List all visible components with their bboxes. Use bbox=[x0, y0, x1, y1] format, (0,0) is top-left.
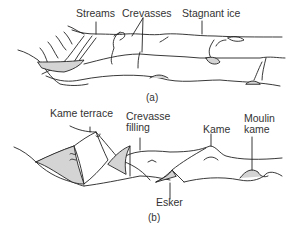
label-kame: Kame bbox=[203, 124, 230, 135]
label-streams: Streams bbox=[76, 8, 115, 19]
label-stagnant-ice: Stagnant ice bbox=[182, 8, 240, 19]
caption-panel-a: (a) bbox=[146, 92, 158, 103]
label-moulin-kame-line2: kame bbox=[244, 124, 270, 135]
panel-b-drawing bbox=[14, 126, 282, 199]
label-crevasses: Crevasses bbox=[122, 8, 172, 19]
panel-a-drawing bbox=[18, 18, 285, 86]
label-esker: Esker bbox=[156, 197, 183, 208]
label-crevasse-filling-line2: filling bbox=[126, 122, 150, 133]
label-kame-terrace: Kame terrace bbox=[50, 108, 113, 119]
caption-panel-b: (b) bbox=[148, 212, 160, 223]
